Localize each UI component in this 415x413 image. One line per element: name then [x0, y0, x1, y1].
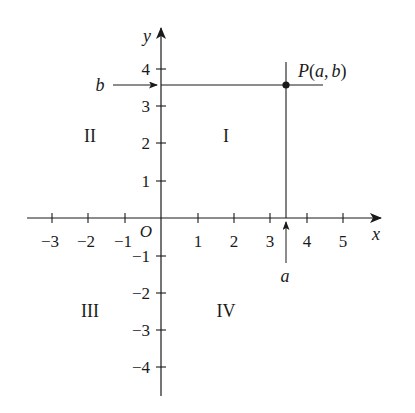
origin-label: O	[140, 222, 152, 241]
point-p	[282, 81, 289, 88]
x-tick-label: −1	[114, 232, 132, 251]
coordinate-plane: −3 −2 −1 1 2 3 4 5 4 3 2 1 −1 −2 −3 −4 y…	[0, 0, 415, 413]
x-tick-labels: −3 −2 −1 1 2 3 4 5	[41, 232, 347, 251]
x-tick-label: 1	[194, 232, 203, 251]
quadrant-ii-label: II	[84, 126, 96, 146]
quadrant-iii-label: III	[81, 301, 99, 321]
y-tick-label: 3	[142, 97, 151, 116]
x-tick-label: 2	[230, 232, 239, 251]
y-tick-label: 2	[142, 134, 151, 153]
y-tick-label: −2	[132, 284, 150, 303]
y-tick-label: −1	[132, 247, 150, 266]
x-tick-label: −2	[77, 232, 95, 251]
x-axis-label: x	[371, 224, 380, 244]
x-tick-label: 4	[303, 232, 312, 251]
quadrant-i-label: I	[223, 126, 229, 146]
point-p-label: P(a,b)	[297, 61, 347, 82]
y-tick-label: 4	[142, 60, 151, 79]
y-axis-label: y	[141, 26, 151, 46]
x-tick-label: 3	[266, 232, 275, 251]
a-marker-label: a	[281, 266, 290, 286]
y-tick-label: −4	[132, 358, 151, 377]
quadrant-iv-label: IV	[217, 301, 236, 321]
x-tick-label: −3	[41, 232, 59, 251]
x-tick-label: 5	[339, 232, 348, 251]
y-tick-label: 1	[142, 172, 151, 191]
b-marker-label: b	[96, 75, 105, 95]
y-tick-label: −3	[132, 321, 150, 340]
